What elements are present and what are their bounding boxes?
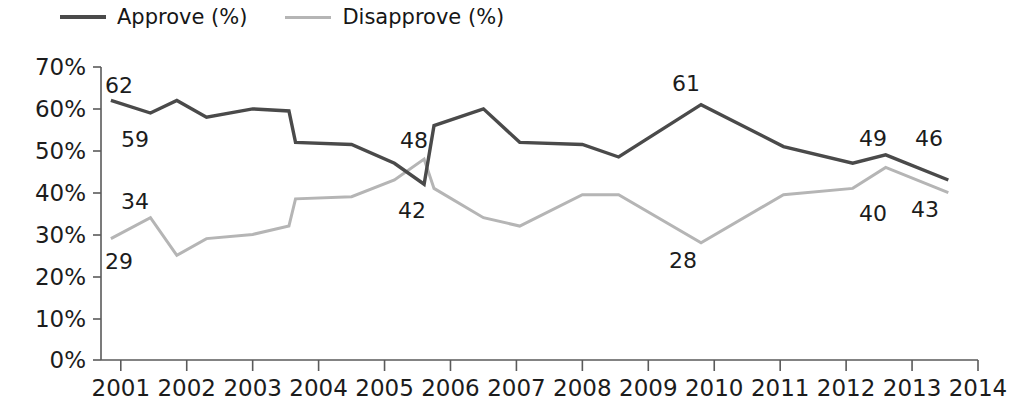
x-tick-label: 2014 xyxy=(949,375,1008,401)
series-line-approve[interactable] xyxy=(111,100,948,184)
data-label-43: 43 xyxy=(911,197,939,222)
x-tick-label: 2009 xyxy=(619,375,678,401)
x-tick-label: 2007 xyxy=(487,375,546,401)
data-label-29: 29 xyxy=(105,249,133,274)
y-tick-label: 0% xyxy=(50,347,87,373)
data-label-61: 61 xyxy=(672,71,700,96)
approval-rating-line-chart: Approve (%) Disapprove (%) 70% 60% 50% xyxy=(0,0,1014,411)
data-label-48: 48 xyxy=(400,128,428,153)
data-label-28: 28 xyxy=(669,248,697,273)
x-tick-label: 2013 xyxy=(883,375,942,401)
x-tick-label: 2010 xyxy=(685,375,744,401)
x-tick-label: 2011 xyxy=(751,375,810,401)
data-label-49: 49 xyxy=(859,126,887,151)
data-label-59: 59 xyxy=(121,127,149,152)
x-tick-label: 2006 xyxy=(421,375,480,401)
y-tick-label: 70% xyxy=(35,54,86,80)
y-axis-tick-labels: 70% 60% 50% 40% 30% 20% 10% 0% xyxy=(35,54,86,373)
data-point-labels: 62 59 34 29 48 42 61 28 49 40 46 43 xyxy=(105,71,943,274)
data-label-42: 42 xyxy=(398,198,426,223)
y-tick-label: 30% xyxy=(35,222,86,248)
x-tick-label: 2012 xyxy=(817,375,876,401)
plot-area: 70% 60% 50% 40% 30% 20% 10% 0% 200120022… xyxy=(0,0,1014,411)
x-tick-label: 2004 xyxy=(289,375,348,401)
x-tick-label: 2005 xyxy=(355,375,414,401)
x-tick-label: 2008 xyxy=(553,375,612,401)
data-label-46: 46 xyxy=(915,126,943,151)
y-tick-label: 10% xyxy=(35,306,86,332)
x-axis-tick-labels: 2001200220032004200520062007200820092010… xyxy=(92,375,1008,401)
x-tick-label: 2002 xyxy=(157,375,216,401)
x-tick-label: 2003 xyxy=(223,375,282,401)
y-tick-label: 60% xyxy=(35,96,86,122)
y-axis-ticks xyxy=(93,67,101,360)
data-label-62: 62 xyxy=(105,73,133,98)
series-line-disapprove[interactable] xyxy=(111,159,948,255)
x-axis-ticks xyxy=(121,360,978,371)
x-tick-label: 2001 xyxy=(92,375,151,401)
data-label-40: 40 xyxy=(859,201,887,226)
y-tick-label: 20% xyxy=(35,264,86,290)
y-tick-label: 50% xyxy=(35,138,86,164)
data-label-34: 34 xyxy=(121,189,149,214)
y-tick-label: 40% xyxy=(35,180,86,206)
